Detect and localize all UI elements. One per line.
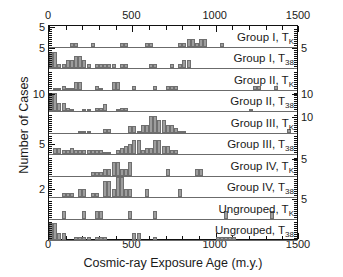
histogram-bar bbox=[112, 64, 116, 68]
y-minor-tick bbox=[294, 84, 297, 85]
y-minor-tick bbox=[294, 74, 297, 75]
histogram-bar bbox=[107, 129, 111, 132]
y-minor-tick bbox=[49, 125, 52, 126]
y-minor-tick bbox=[294, 97, 297, 98]
y-minor-tick bbox=[49, 131, 52, 132]
y-minor-tick bbox=[294, 117, 297, 118]
y-minor-tick bbox=[49, 93, 52, 94]
panel-label: Ungrouped, TK bbox=[219, 203, 294, 219]
y-minor-tick bbox=[49, 201, 52, 202]
y-minor-tick bbox=[49, 117, 52, 118]
histogram-bar bbox=[132, 86, 136, 90]
panel-label: Group III, TK bbox=[231, 117, 294, 133]
x-tick-label-top-0: 0 bbox=[45, 9, 51, 21]
y-minor-tick bbox=[294, 64, 297, 65]
panel-group-iv-t-38: Group IV, T382 bbox=[49, 177, 297, 199]
y-minor-tick bbox=[294, 56, 297, 57]
histogram-bar bbox=[170, 64, 174, 68]
y-minor-tick bbox=[49, 127, 52, 128]
y-minor-tick bbox=[294, 82, 297, 83]
y-minor-tick bbox=[294, 150, 297, 151]
panel-label: Group I, TK bbox=[237, 31, 294, 47]
histogram-bar bbox=[153, 86, 157, 90]
y-minor-tick bbox=[294, 181, 297, 182]
y-minor-tick bbox=[49, 72, 52, 73]
panel-group-iii-t-38: Group III, T385 bbox=[49, 134, 297, 156]
histogram-bar bbox=[153, 237, 157, 240]
y-minor-tick bbox=[49, 224, 52, 225]
y-minor-tick bbox=[49, 238, 52, 239]
panel-label: Group II, TK bbox=[234, 74, 294, 90]
histogram-bar bbox=[95, 193, 99, 197]
histogram-bar bbox=[174, 86, 178, 90]
y-minor-tick bbox=[49, 142, 52, 143]
y-minor-tick bbox=[49, 217, 52, 218]
histogram-bar bbox=[153, 64, 157, 68]
y-minor-tick bbox=[294, 174, 297, 175]
x-tick-label-top-500: 500 bbox=[122, 9, 140, 21]
histogram-bar bbox=[137, 233, 141, 240]
y-minor-tick bbox=[294, 222, 297, 223]
y-minor-tick bbox=[294, 78, 297, 79]
y-minor-tick bbox=[49, 58, 52, 59]
histogram-bar bbox=[124, 64, 128, 68]
y-minor-tick bbox=[49, 222, 52, 223]
y-minor-tick bbox=[49, 95, 52, 96]
y-tick-label-5: 5 bbox=[39, 42, 45, 54]
y-minor-tick bbox=[294, 54, 297, 55]
y-minor-tick bbox=[294, 228, 297, 229]
histogram-bar bbox=[128, 189, 132, 197]
histogram-bar bbox=[87, 109, 91, 111]
y-minor-tick bbox=[294, 103, 297, 104]
y-minor-tick bbox=[49, 207, 52, 208]
histogram-bar bbox=[70, 109, 74, 111]
panel-label: Ungrouped, T38 bbox=[215, 224, 294, 240]
y-minor-tick bbox=[49, 35, 52, 36]
y-minor-tick bbox=[294, 136, 297, 137]
histogram-bar bbox=[82, 211, 86, 219]
panel-group-i-t-38: Group I, T3855 bbox=[49, 48, 297, 70]
y-minor-tick bbox=[294, 123, 297, 124]
y-tick-label-5: 5 bbox=[39, 21, 45, 33]
y-axis-title: Number of Cases bbox=[17, 45, 31, 205]
panel-label: Group I, T38 bbox=[234, 52, 294, 68]
panel-group-iii-t-k: Group III, TK10 bbox=[49, 112, 297, 134]
y-minor-tick bbox=[49, 121, 52, 122]
y-minor-tick bbox=[49, 203, 52, 204]
y-minor-tick bbox=[49, 166, 52, 167]
y-minor-tick bbox=[49, 195, 52, 196]
y-minor-tick bbox=[294, 226, 297, 227]
panel-group-ii-t-38: Group II, T381010 bbox=[49, 91, 297, 113]
y-minor-tick bbox=[49, 205, 52, 206]
y-minor-tick bbox=[49, 146, 52, 147]
y-minor-tick bbox=[49, 215, 52, 216]
y-minor-tick bbox=[294, 213, 297, 214]
y-minor-tick bbox=[49, 193, 52, 194]
y-minor-tick bbox=[49, 123, 52, 124]
y-minor-tick bbox=[49, 76, 52, 77]
y-minor-tick bbox=[49, 230, 52, 231]
y-minor-tick bbox=[294, 86, 297, 87]
y-minor-tick bbox=[49, 66, 52, 67]
panel-group-i-t-k: Group I, TK5 bbox=[49, 26, 297, 48]
y-minor-tick bbox=[49, 105, 52, 106]
histogram-bar bbox=[187, 60, 191, 68]
y-minor-tick bbox=[294, 93, 297, 94]
y-minor-tick bbox=[49, 140, 52, 141]
y-minor-tick bbox=[49, 88, 52, 89]
y-minor-tick bbox=[49, 168, 52, 169]
y-minor-tick bbox=[49, 43, 52, 44]
y-minor-tick bbox=[49, 185, 52, 186]
histogram-bar bbox=[149, 43, 153, 47]
y-minor-tick bbox=[294, 52, 297, 53]
histogram-bar bbox=[178, 189, 182, 197]
y-minor-tick bbox=[49, 29, 52, 30]
y-minor-tick bbox=[49, 129, 52, 130]
y-minor-tick bbox=[294, 203, 297, 204]
y-minor-tick bbox=[294, 162, 297, 163]
y-minor-tick bbox=[294, 88, 297, 89]
y-minor-tick bbox=[294, 195, 297, 196]
y-minor-tick bbox=[294, 109, 297, 110]
y-tick-label-10: 10 bbox=[301, 88, 313, 100]
y-minor-tick bbox=[294, 191, 297, 192]
